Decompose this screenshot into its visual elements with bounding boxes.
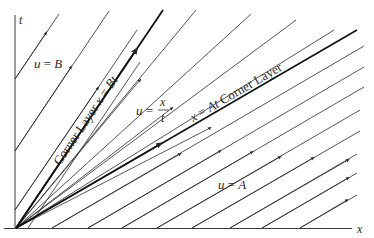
svg-text:u =: u = [136,103,153,118]
region-a-label: u = A [218,177,246,192]
t-axis-label: t [19,13,23,27]
svg-text:x: x [159,95,166,109]
lower-boundary-label: x = At Corner Layer [186,59,285,125]
x-axis-label: x [356,222,363,236]
corner-layer-boundaries [16,10,357,228]
fan-label: u = x t [136,95,169,125]
characteristics-region-a [52,46,364,228]
upper-boundary-label: Corner Layer x = Bt [50,73,121,168]
characteristics-diagram: t x [0,0,374,238]
region-b-label: u = B [34,56,62,71]
